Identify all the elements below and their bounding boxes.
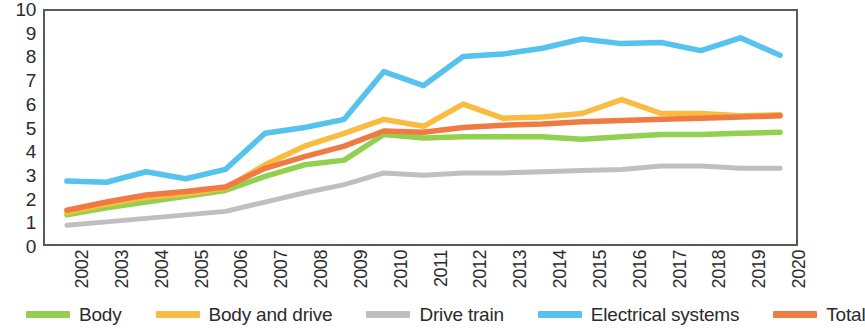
y-tick-label: 8 <box>26 47 36 66</box>
x-tick-label: 2008 <box>312 250 330 288</box>
y-tick-label: 9 <box>26 23 36 42</box>
legend-item[interactable]: Body <box>26 305 122 324</box>
legend-label: Electrical systems <box>591 305 739 324</box>
x-tick-label: 2010 <box>392 250 410 288</box>
y-tick-label: 3 <box>26 165 36 184</box>
x-axis: 2002200320042005200620072008200920102011… <box>43 248 798 306</box>
legend-item[interactable]: Body and drive <box>156 305 333 324</box>
x-tick-label: 2004 <box>153 250 171 288</box>
series-line-electrical-systems <box>67 38 780 182</box>
y-tick-label: 5 <box>26 118 36 137</box>
x-tick-label: 2006 <box>232 250 250 288</box>
legend-item[interactable]: Electrical systems <box>538 305 739 324</box>
x-tick-label: 2013 <box>511 250 529 288</box>
x-tick-label: 2018 <box>710 250 728 288</box>
x-tick-label: 2012 <box>471 250 489 288</box>
legend-swatch-icon <box>26 311 70 318</box>
y-tick-label: 2 <box>26 189 36 208</box>
x-tick-label: 2020 <box>790 250 808 288</box>
y-tick-label: 4 <box>26 142 36 161</box>
legend-label: Body and drive <box>209 305 333 324</box>
y-axis: 109876543210 <box>0 0 40 256</box>
legend-swatch-icon <box>773 311 817 318</box>
x-tick-label: 2017 <box>671 250 689 288</box>
x-tick-label: 2005 <box>193 250 211 288</box>
x-tick-label: 2002 <box>73 250 91 288</box>
y-tick-label: 0 <box>26 237 36 256</box>
legend-label: Drive train <box>419 305 503 324</box>
legend-label: Body <box>79 305 122 324</box>
y-tick-label: 6 <box>26 94 36 113</box>
x-tick-label: 2015 <box>591 250 609 288</box>
x-tick-label: 2011 <box>432 250 450 287</box>
plot-area <box>43 9 798 246</box>
legend-swatch-icon <box>366 311 410 318</box>
legend-label: Total <box>826 305 865 324</box>
x-tick-label: 2009 <box>352 250 370 288</box>
x-tick-label: 2019 <box>750 250 768 288</box>
legend-item[interactable]: Drive train <box>366 305 503 324</box>
legend-swatch-icon <box>538 311 582 318</box>
y-tick-label: 7 <box>26 71 36 90</box>
series-layer <box>45 11 796 244</box>
y-tick-label: 1 <box>26 213 36 232</box>
y-tick-label: 10 <box>15 0 36 19</box>
x-tick-label: 2007 <box>272 250 290 288</box>
x-tick-label: 2003 <box>113 250 131 288</box>
chart-legend: BodyBody and driveDrive trainElectrical … <box>0 300 810 329</box>
x-tick-label: 2016 <box>631 250 649 288</box>
legend-item[interactable]: Total <box>773 305 865 324</box>
legend-swatch-icon <box>156 311 200 318</box>
x-tick-label: 2014 <box>551 250 569 288</box>
